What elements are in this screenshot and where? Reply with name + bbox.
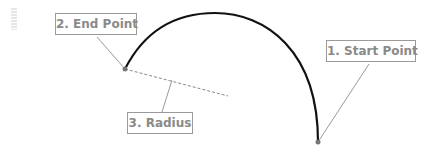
radius-leader <box>162 80 172 112</box>
start-point-marker <box>316 140 321 145</box>
radius-line <box>125 69 228 96</box>
end-point-marker <box>123 67 128 72</box>
start-point-leader <box>318 64 369 142</box>
start-point-label: 1. Start Point <box>326 40 416 62</box>
end-point-leader <box>97 37 125 69</box>
end-point-label: 2. End Point <box>55 13 137 35</box>
radius-label: 3. Radius <box>127 112 193 134</box>
